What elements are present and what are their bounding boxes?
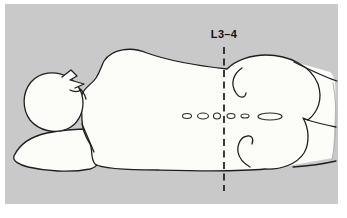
medical-illustration-page: L3–4 bbox=[0, 0, 347, 218]
body-silhouette bbox=[81, 49, 320, 171]
spinous-process-oval bbox=[214, 113, 221, 119]
spinous-process-oval bbox=[241, 114, 249, 118]
patient-lateral-position-illustration bbox=[0, 0, 347, 218]
sacrum-oval bbox=[258, 113, 282, 120]
l3-4-label: L3–4 bbox=[211, 28, 237, 40]
spinous-process-oval bbox=[198, 113, 209, 119]
spinous-process-oval bbox=[227, 114, 235, 119]
spinous-process-oval bbox=[183, 114, 192, 119]
